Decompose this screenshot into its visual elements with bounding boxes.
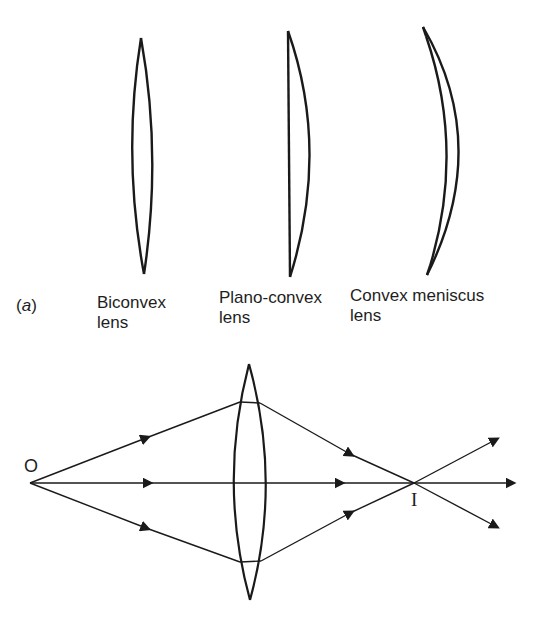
- lens-label-line2: lens: [350, 306, 484, 326]
- lens-label-plano-convex: Plano-convex lens: [219, 288, 322, 328]
- lens-label-line2: lens: [97, 313, 166, 333]
- lens-label-line2: lens: [219, 308, 322, 328]
- plano-convex-lens: [288, 31, 310, 277]
- lens-label-line1: Convex meniscus: [350, 286, 484, 306]
- lens-label-line1: Plano-convex: [219, 288, 322, 308]
- biconvex-lens: [132, 38, 152, 274]
- ray-upper: [30, 402, 495, 483]
- lens-label-convex-meniscus: Convex meniscus lens: [350, 286, 484, 326]
- convex-meniscus-lens: [423, 27, 459, 275]
- object-point-label: O: [24, 456, 38, 477]
- lens-label-line1: Biconvex: [97, 293, 166, 313]
- converging-lens: [234, 364, 266, 600]
- part-label-a: (a): [16, 296, 37, 316]
- lens-label-biconvex: Biconvex lens: [97, 293, 166, 333]
- image-point-label: I: [411, 489, 417, 511]
- ray-lower: [30, 483, 495, 562]
